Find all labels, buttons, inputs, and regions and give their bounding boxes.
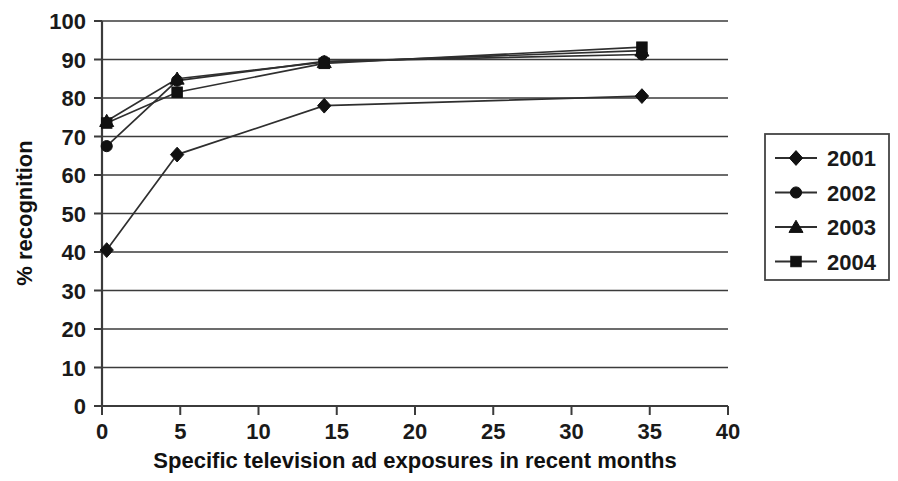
data-point-marker [637, 42, 647, 52]
gridlines-group [102, 21, 728, 368]
y-tick-label: 60 [62, 163, 86, 188]
legend-label: 2001 [827, 146, 876, 171]
y-axis [94, 21, 102, 406]
data-point-marker [101, 118, 111, 128]
y-tick-label: 70 [62, 125, 86, 150]
legend-label: 2004 [827, 250, 877, 275]
legend-marker-square-icon [791, 256, 801, 266]
series-2004 [101, 42, 647, 128]
y-tick-label: 30 [62, 279, 86, 304]
y-tick-label: 10 [62, 356, 86, 381]
data-point-marker [101, 141, 112, 152]
x-tick-label: 5 [174, 419, 186, 444]
y-tick-label: 40 [62, 240, 86, 265]
y-tick-label: 50 [62, 202, 86, 227]
y-axis-tick-labels: 0102030405060708090100 [49, 9, 86, 419]
series-line [107, 54, 642, 146]
legend-label: 2003 [827, 215, 876, 240]
series-line [107, 96, 642, 250]
x-tick-label: 10 [246, 419, 270, 444]
x-tick-label: 20 [403, 419, 427, 444]
x-tick-label: 40 [716, 419, 740, 444]
legend: 2001200220032004 [765, 134, 889, 280]
chart-canvas: 0102030405060708090100 0510152025303540 … [0, 0, 898, 481]
y-axis-title: % recognition [12, 140, 37, 285]
data-point-marker [319, 58, 329, 68]
data-point-marker [635, 89, 648, 104]
x-axis-title: Specific television ad exposures in rece… [153, 448, 676, 473]
line-chart-figure: 0102030405060708090100 0510152025303540 … [0, 0, 898, 481]
y-tick-label: 80 [62, 86, 86, 111]
x-tick-label: 25 [481, 419, 505, 444]
series-line [107, 47, 642, 123]
y-tick-marks [94, 21, 102, 406]
x-tick-label: 35 [638, 419, 662, 444]
y-tick-label: 0 [74, 394, 86, 419]
data-point-marker [318, 98, 331, 113]
series-2001 [100, 89, 649, 258]
x-axis-tick-labels: 0510152025303540 [96, 419, 740, 444]
x-tick-label: 30 [559, 419, 583, 444]
y-tick-label: 90 [62, 48, 86, 73]
y-tick-label: 20 [62, 317, 86, 342]
data-series-group [100, 42, 649, 257]
legend-marker-circle-icon [790, 187, 801, 198]
x-tick-marks [102, 406, 728, 415]
x-axis [102, 406, 728, 415]
x-tick-label: 0 [96, 419, 108, 444]
y-tick-label: 100 [49, 9, 86, 34]
x-tick-label: 15 [325, 419, 349, 444]
data-point-marker [172, 87, 182, 97]
legend-label: 2002 [827, 181, 876, 206]
